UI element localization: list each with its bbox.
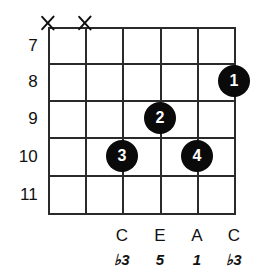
- finger-dot: 3: [106, 140, 138, 172]
- fret-line: [48, 63, 234, 65]
- note-name: C: [102, 227, 142, 244]
- fret-number: 7: [6, 37, 38, 54]
- finger-dot: 1: [218, 65, 250, 97]
- muted-string-x-icon: [76, 14, 94, 32]
- fret-number: 11: [6, 186, 38, 203]
- guitar-chord-diagram: 7 8 9 10 11 1 2 3 4 C E: [0, 0, 265, 275]
- finger-dot: 4: [181, 140, 213, 172]
- fret-number: 10: [6, 148, 38, 165]
- fret-number: 8: [6, 73, 38, 90]
- fret-line: [48, 100, 234, 102]
- note-name: A: [177, 227, 217, 244]
- string-line: [197, 27, 199, 215]
- string-line: [85, 27, 87, 215]
- fret-number: 9: [6, 110, 38, 127]
- fret-line: [48, 175, 234, 177]
- note-name: E: [140, 227, 180, 244]
- note-name: C: [214, 227, 254, 244]
- fret-line: [48, 213, 234, 215]
- muted-string-x-icon: [39, 14, 57, 32]
- string-line: [48, 27, 50, 215]
- string-line: [122, 27, 124, 215]
- finger-dot: 2: [144, 102, 176, 134]
- string-line: [234, 27, 236, 215]
- fret-line: [48, 137, 234, 139]
- interval-label: ♭3: [212, 252, 256, 267]
